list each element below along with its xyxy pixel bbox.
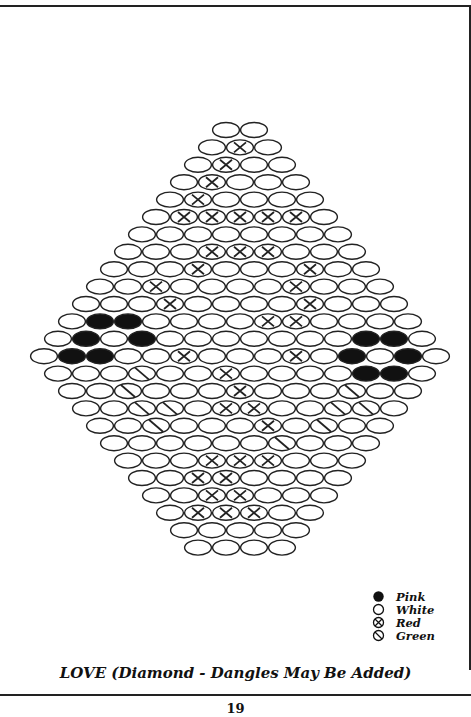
bead (283, 453, 310, 468)
bead (353, 262, 380, 277)
bead (101, 436, 128, 451)
bead (283, 314, 310, 329)
bead (213, 157, 240, 172)
bead (213, 540, 240, 555)
bead (325, 436, 352, 451)
bead (381, 366, 408, 381)
bead (129, 331, 156, 346)
bead (171, 384, 198, 399)
bead (241, 471, 268, 486)
bead (409, 366, 436, 381)
bead (283, 488, 310, 503)
bead (199, 244, 226, 259)
bead (185, 331, 212, 346)
bead (339, 418, 366, 433)
bead (185, 401, 212, 416)
bead (269, 505, 296, 520)
bead (311, 488, 338, 503)
bead (143, 314, 170, 329)
bead (227, 384, 254, 399)
bead (87, 279, 114, 294)
bead (241, 505, 268, 520)
bead (227, 488, 254, 503)
bead (129, 227, 156, 242)
bead (87, 314, 114, 329)
bead (395, 349, 422, 364)
bead (353, 366, 380, 381)
bead (101, 331, 128, 346)
bead (311, 314, 338, 329)
bead (213, 123, 240, 138)
bead (185, 366, 212, 381)
bead (269, 227, 296, 242)
bead (339, 244, 366, 259)
bead (171, 488, 198, 503)
legend-label: White (396, 603, 434, 617)
bead (283, 244, 310, 259)
bead (353, 436, 380, 451)
bead (325, 331, 352, 346)
bead-pattern-diamond (0, 0, 471, 580)
bead (199, 314, 226, 329)
bead (269, 366, 296, 381)
bead (171, 523, 198, 538)
bead (101, 401, 128, 416)
bead (129, 471, 156, 486)
bead (311, 244, 338, 259)
bead (367, 418, 394, 433)
bead (241, 157, 268, 172)
bead (339, 314, 366, 329)
bead (325, 401, 352, 416)
bead (353, 331, 380, 346)
bead (129, 297, 156, 312)
bead (241, 540, 268, 555)
bead (115, 314, 142, 329)
bead (367, 384, 394, 399)
bead (143, 210, 170, 225)
bead (199, 349, 226, 364)
bead (297, 505, 324, 520)
bead (115, 244, 142, 259)
bead (157, 436, 184, 451)
bead (227, 314, 254, 329)
bead (297, 471, 324, 486)
bead (255, 453, 282, 468)
bead (143, 488, 170, 503)
bead (423, 349, 450, 364)
bead (255, 175, 282, 190)
bead (255, 210, 282, 225)
bead (143, 418, 170, 433)
bead (395, 314, 422, 329)
bead (255, 140, 282, 155)
bead (283, 418, 310, 433)
bead (59, 314, 86, 329)
bead (185, 192, 212, 207)
bead (171, 175, 198, 190)
bead (339, 384, 366, 399)
legend: Pink White Red Green (372, 590, 435, 642)
bead (115, 279, 142, 294)
bead (101, 297, 128, 312)
bead (45, 331, 72, 346)
bead (199, 523, 226, 538)
bead (171, 453, 198, 468)
open-circle-icon (372, 603, 385, 616)
bead (297, 436, 324, 451)
bead (311, 210, 338, 225)
bead (255, 349, 282, 364)
bead (185, 436, 212, 451)
bead (185, 540, 212, 555)
bead (213, 262, 240, 277)
bead (283, 384, 310, 399)
bead (269, 436, 296, 451)
bead (325, 366, 352, 381)
page-number: 19 (0, 701, 471, 716)
bead (199, 453, 226, 468)
bead (73, 401, 100, 416)
bead (297, 401, 324, 416)
bead (381, 401, 408, 416)
bead (199, 175, 226, 190)
bead (227, 210, 254, 225)
bead (395, 384, 422, 399)
bead (129, 401, 156, 416)
